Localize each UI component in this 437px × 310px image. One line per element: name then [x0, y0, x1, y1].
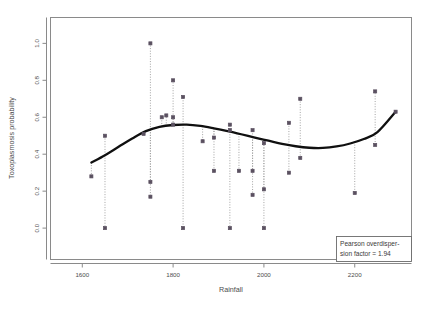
data-point	[374, 143, 377, 146]
chart-figure: 1600180020002200 0.00.20.40.60.81.0 Rain…	[0, 0, 437, 310]
data-point	[228, 227, 231, 230]
x-tick-label: 1600	[75, 271, 89, 278]
x-axis-label: Rainfall	[219, 285, 243, 294]
x-tick-label: 2200	[348, 271, 362, 278]
data-point	[172, 116, 175, 119]
data-point	[287, 121, 290, 124]
data-point	[299, 97, 302, 100]
y-tick-label: 0.0	[33, 223, 40, 232]
annotation-line-2: sion factor = 1.94	[340, 250, 391, 257]
data-point	[262, 227, 265, 230]
data-point	[165, 114, 168, 117]
data-point	[237, 169, 240, 172]
annotation-box: Pearson overdisper- sion factor = 1.94	[337, 237, 412, 262]
data-point	[182, 95, 185, 98]
data-point	[182, 227, 185, 230]
data-point	[251, 169, 254, 172]
data-point	[262, 188, 265, 191]
y-tick-label: 0.6	[33, 112, 40, 121]
data-point	[103, 134, 106, 137]
data-point	[353, 191, 356, 194]
data-point	[172, 123, 175, 126]
data-point	[90, 175, 93, 178]
y-tick-label: 0.4	[33, 149, 40, 158]
data-point	[201, 140, 204, 143]
data-point	[299, 156, 302, 159]
y-tick-label: 0.8	[33, 75, 40, 84]
data-point	[212, 136, 215, 139]
data-point	[160, 116, 163, 119]
data-point	[212, 169, 215, 172]
x-tick-label: 1800	[166, 271, 180, 278]
data-point	[172, 79, 175, 82]
y-tick-label: 1.0	[33, 39, 40, 48]
data-point	[149, 180, 152, 183]
data-point	[149, 195, 152, 198]
data-point	[251, 129, 254, 132]
data-point	[142, 132, 145, 135]
data-point	[374, 90, 377, 93]
data-point	[103, 227, 106, 230]
y-tick-label: 0.2	[33, 186, 40, 195]
toxoplasmosis-rainfall-scatter-plot: 1600180020002200 0.00.20.40.60.81.0 Rain…	[0, 0, 437, 310]
data-point	[251, 193, 254, 196]
data-point	[262, 142, 265, 145]
y-axis-label: Toxoplasmosis probability	[7, 97, 16, 179]
data-point	[394, 110, 397, 113]
data-point	[228, 129, 231, 132]
data-point	[228, 123, 231, 126]
annotation-line-1: Pearson overdisper-	[340, 240, 399, 248]
x-tick-label: 2000	[257, 271, 271, 278]
data-point	[287, 171, 290, 174]
data-point	[149, 42, 152, 45]
